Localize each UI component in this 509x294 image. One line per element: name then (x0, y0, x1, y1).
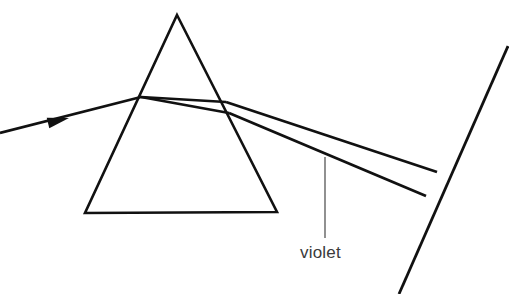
ray-diagram-canvas: violet (0, 0, 509, 294)
exit-ray-upper-line (226, 102, 437, 172)
incident-ray-line (0, 97, 141, 133)
screen-line (399, 46, 508, 294)
optics-prism-dispersion-figure: violet (0, 0, 509, 294)
incident-ray-arrow-icon (47, 118, 69, 129)
violet-label: violet (300, 243, 341, 262)
exit-ray-lower-line (229, 113, 426, 196)
prism-triangle (85, 15, 277, 213)
